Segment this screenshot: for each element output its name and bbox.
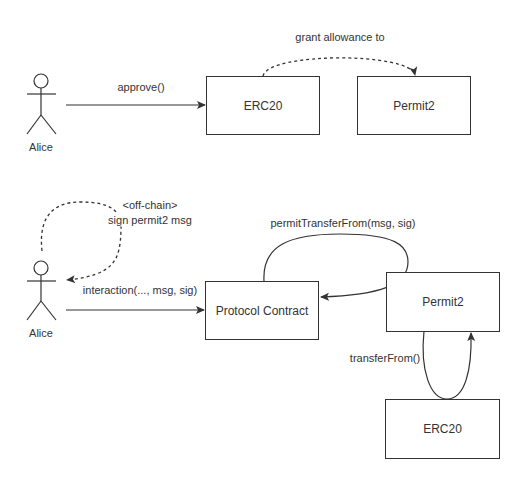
- protocol-contract-box-label: Protocol Contract: [216, 304, 309, 318]
- actor-alice-bottom-label: Alice: [29, 327, 53, 339]
- sign-permit2-msg-label: sign permit2 msg: [108, 214, 192, 227]
- off-chain-label: <off-chain>: [123, 199, 178, 212]
- permit2-box-top-label: Permit2: [393, 99, 434, 113]
- erc20-box-top-label: ERC20: [244, 99, 283, 113]
- erc20-box-bottom-label: ERC20: [423, 422, 462, 436]
- permit2-box-bottom-label: Permit2: [422, 295, 463, 309]
- grant-allowance-label: grant allowance to: [295, 31, 384, 44]
- transfer-from-label: transferFrom(): [350, 352, 420, 365]
- actor-alice-top-label: Alice: [29, 141, 53, 153]
- transfer-from-arrow: [423, 331, 471, 399]
- permit-transfer-from-label: permitTransferFrom(msg, sig): [270, 217, 415, 230]
- permit2-box-bottom[interactable]: Permit2: [386, 272, 500, 332]
- approve-label: approve(): [117, 81, 164, 94]
- erc20-box-top[interactable]: ERC20: [206, 76, 320, 135]
- erc20-box-bottom[interactable]: ERC20: [385, 399, 500, 459]
- actor-alice-bottom-icon: [27, 261, 56, 320]
- interaction-label: interaction(..., msg, sig): [83, 284, 197, 297]
- actor-alice-top-icon: [27, 74, 56, 134]
- protocol-contract-box[interactable]: Protocol Contract: [205, 281, 319, 340]
- grant-allowance-arrow: [263, 58, 415, 76]
- permit2-box-top[interactable]: Permit2: [357, 76, 471, 135]
